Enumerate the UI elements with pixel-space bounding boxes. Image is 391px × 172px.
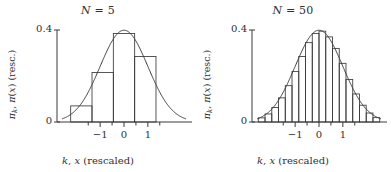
histogram-bar <box>332 48 339 122</box>
histogram-bar <box>285 86 292 122</box>
histogram-bar <box>272 108 279 122</box>
histogram-bar <box>299 56 306 122</box>
x-tick-label-one-n50: 1 <box>328 129 358 140</box>
histogram-bar <box>71 106 92 122</box>
y-tick-label-top-n5: 0.4 <box>22 23 52 34</box>
y-tick-label-bottom-n5: 0 <box>22 115 52 126</box>
y-axis-spine <box>54 30 60 122</box>
histogram-bar <box>326 37 333 122</box>
histogram-bar <box>113 33 134 122</box>
x-axis-label-rest: (rescaled) <box>275 155 329 166</box>
x-tick-label-one-n5: 1 <box>133 129 163 140</box>
x-axis-label-n5: k, x (rescaled) <box>0 155 196 166</box>
y-axis-label-n50: πk, π(x) (resc.) <box>201 35 214 135</box>
x-axis-label-n50: k, x (rescaled) <box>195 155 391 166</box>
histogram-bar <box>92 73 113 122</box>
panel-n5: N = 5 πk, π(x) (resc.) k, x (rescaled) 0… <box>0 0 196 172</box>
y-axis-spine <box>249 30 255 122</box>
histogram-bar <box>319 31 326 122</box>
y-tick-label-bottom-n50: 0 <box>217 115 247 126</box>
histogram-bar <box>279 98 286 122</box>
histogram-bar <box>135 56 156 122</box>
panel-n50: N = 50 πk, π(x) (resc.) k, x (rescaled) … <box>195 0 391 172</box>
histogram-bar <box>306 43 313 122</box>
histogram-bar <box>265 114 272 122</box>
figure-root: N = 5 πk, π(x) (resc.) k, x (rescaled) 0… <box>0 0 391 172</box>
x-axis-label-rest: (rescaled) <box>80 155 134 166</box>
y-axis-label-n5: πk, π(x) (resc.) <box>6 35 19 135</box>
histogram-bar <box>312 33 319 122</box>
y-tick-label-top-n50: 0.4 <box>217 23 247 34</box>
histogram-bar <box>292 71 299 122</box>
